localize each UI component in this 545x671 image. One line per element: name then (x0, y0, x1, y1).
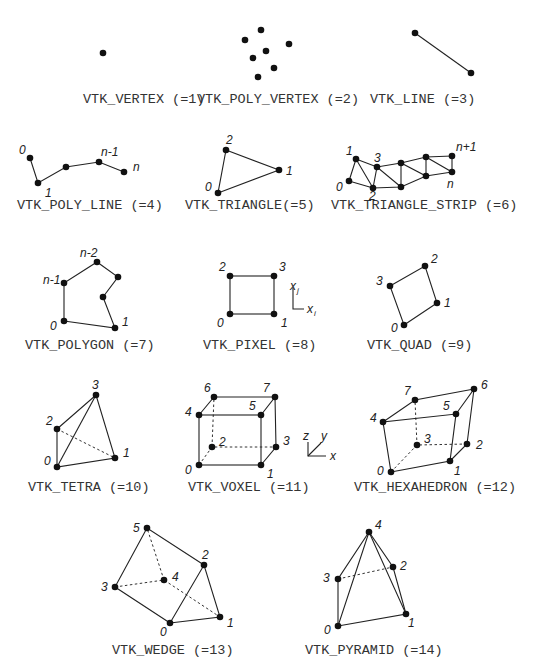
point (271, 273, 278, 280)
point (414, 442, 421, 449)
point (227, 311, 234, 318)
label: 0 (44, 454, 51, 468)
cell-tetra: 0 1 2 3 VTK_TETRA (=10) (28, 378, 150, 495)
point (227, 273, 234, 280)
point (196, 462, 203, 469)
axis-label: x (289, 279, 297, 293)
point (112, 455, 119, 462)
point (250, 55, 257, 62)
point (366, 529, 373, 536)
cell-vertex: VTK_VERTEX (=1) (83, 50, 205, 107)
point (353, 156, 360, 163)
point (61, 318, 68, 325)
point (286, 41, 293, 48)
edge (57, 395, 115, 467)
point (335, 623, 342, 630)
edge (356, 156, 452, 167)
label: 1 (444, 296, 451, 310)
hidden-edge (212, 397, 214, 447)
edge (338, 532, 406, 626)
point (161, 577, 168, 584)
label: n-1 (43, 273, 60, 287)
label: 4 (172, 570, 179, 584)
edge (415, 33, 471, 73)
point (93, 392, 100, 399)
point (27, 155, 34, 162)
axes-icon: z y x (302, 429, 337, 463)
point (272, 394, 279, 401)
point (61, 280, 68, 287)
point (276, 167, 283, 174)
label: 0 (377, 464, 384, 478)
label: 0 (19, 143, 26, 157)
cell-voxel: 0 1 2 3 4 5 6 7 z y x VTK_VOXEL (=11) (185, 381, 337, 495)
edge (30, 158, 124, 183)
point (449, 153, 456, 160)
label: 1 (346, 144, 353, 158)
label: n-2 (80, 246, 98, 260)
label: 1 (123, 446, 130, 460)
point (255, 74, 262, 81)
point (346, 178, 353, 185)
point (217, 614, 224, 621)
edge (199, 397, 275, 415)
label: 0 (217, 316, 224, 330)
edge (218, 150, 279, 193)
label: 1 (267, 467, 274, 481)
label: 1 (227, 616, 234, 630)
caption: VTK_POLY_VERTEX (=2) (197, 92, 359, 107)
edge (199, 415, 261, 465)
point (112, 584, 119, 591)
label: 2 (399, 559, 407, 573)
point (115, 274, 122, 281)
cell-hexahedron: 0 1 2 3 4 5 6 7 VTK_HEXAHEDRON (=12) (354, 378, 516, 495)
point (96, 159, 103, 166)
point (54, 464, 61, 471)
hidden-edge (115, 580, 220, 617)
point (398, 184, 405, 191)
edge (450, 389, 474, 461)
point (453, 411, 460, 418)
label: 2 (218, 435, 226, 449)
cell-poly-vertex: VTK_POLY_VERTEX (=2) (197, 27, 359, 107)
caption: VTK_TRIANGLE(=5) (185, 198, 315, 213)
axis-label: x (306, 302, 314, 316)
caption: VTK_WEDGE (=13) (112, 643, 234, 658)
label: 0 (391, 321, 398, 335)
edge (115, 528, 204, 623)
cell-types-diagram: VTK_VERTEX (=1) VTK_POLY_VERTEX (=2) VTK… (0, 0, 545, 671)
label: 2 (430, 252, 438, 266)
point (390, 564, 397, 571)
point (196, 412, 203, 419)
label: 5 (443, 399, 450, 413)
label: n (447, 177, 454, 191)
caption: VTK_POLY_LINE (=4) (17, 198, 163, 213)
label: 3 (283, 434, 290, 448)
label: n (133, 160, 140, 174)
caption: VTK_HEXAHEDRON (=12) (354, 480, 516, 495)
hidden-edge (415, 400, 417, 445)
label: 0 (324, 623, 331, 637)
label: 3 (92, 378, 99, 392)
label: 7 (263, 381, 271, 395)
label: 2 (225, 133, 233, 147)
point (258, 412, 265, 419)
cell-line: VTK_LINE (=3) (370, 30, 475, 107)
cell-wedge: 0 1 2 3 4 5 VTK_WEDGE (=13) (101, 521, 234, 658)
label: 6 (481, 378, 488, 392)
caption: VTK_PYRAMID (=14) (305, 643, 443, 658)
caption: VTK_TRIANGLE_STRIP (=6) (331, 198, 517, 213)
cell-triangle: 0 1 2 VTK_TRIANGLE(=5) (185, 133, 315, 213)
point (412, 30, 419, 37)
axis-subscript: j (296, 286, 299, 295)
label: 5 (133, 521, 140, 535)
label: 3 (323, 571, 330, 585)
label: 2 (45, 414, 53, 428)
label: 1 (408, 616, 415, 630)
point (401, 322, 408, 329)
label: 3 (279, 260, 286, 274)
label: 5 (249, 399, 256, 413)
point (144, 525, 151, 532)
caption: VTK_TETRA (=10) (28, 480, 150, 495)
axis-line (308, 443, 321, 456)
